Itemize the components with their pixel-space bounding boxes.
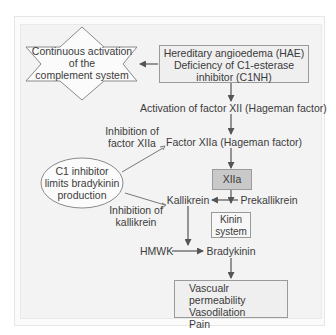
hae-line-2: Deficiency of C1-esterase: [160, 59, 308, 71]
complement-node: Continuous activation of the complement …: [30, 45, 134, 81]
inhibit-kallikrein-line-1: Inhibition of: [104, 204, 168, 216]
effect-vasodilation: Vasodilation: [189, 306, 287, 318]
inhibit-xiia-line-1: Inhibition of: [100, 125, 164, 137]
complement-line-3: complement system: [30, 69, 134, 81]
c1-line-3: production: [41, 189, 123, 201]
effect-pain: Pain: [189, 318, 287, 330]
complement-line-2: of the: [30, 57, 134, 69]
inhibition-kallikrein-label: Inhibition of kallikrein: [104, 204, 168, 228]
factor-xiia-label: Factor XIIa (Hageman factor): [166, 136, 298, 149]
inhibit-kallikrein-line-2: kallikrein: [104, 216, 168, 228]
c1-line-1: C1 inhibitor: [41, 165, 123, 177]
activation-factor-xii-label: Activation of factor XII (Hageman factor…: [140, 102, 322, 115]
kallikrein-label: Kallikrein: [165, 194, 211, 207]
xiia-box: XIIa: [212, 169, 252, 190]
c1-line-2: limits bradykinin: [41, 177, 123, 189]
hmwk-label: HMWK: [140, 245, 172, 258]
hae-line-3: inhibitor (C1NH): [160, 71, 308, 83]
prekallikrein-label: Prekallikrein: [239, 194, 299, 207]
complement-line-1: Continuous activation: [30, 45, 134, 57]
hae-box: Hereditary angioedema (HAE) Deficiency o…: [159, 45, 309, 83]
effects-box: Vascualr permeability Vasodilation Pain: [174, 280, 288, 318]
kinin-line-2: system: [212, 226, 250, 238]
c1-inhibitor-node: C1 inhibitor limits bradykinin productio…: [41, 165, 123, 201]
effect-vascular-permeability: Vascualr permeability: [189, 282, 287, 306]
hae-line-1: Hereditary angioedema (HAE): [160, 47, 308, 59]
inhibition-xiia-label: Inhibition of factor XIIa: [100, 125, 164, 149]
kinin-system-box: Kinin system: [211, 212, 251, 238]
bradykinin-label: Bradykinin: [206, 245, 256, 258]
kinin-line-1: Kinin: [212, 214, 250, 226]
inhibit-xiia-line-2: factor XIIa: [100, 137, 164, 149]
